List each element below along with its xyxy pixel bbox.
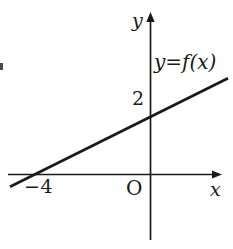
x-intercept-tick-label: −4 (24, 177, 53, 196)
x-axis-label: x (210, 180, 221, 199)
function-graph-figure: y x O 2 −4 y=f(x) (0, 0, 233, 249)
y-axis-label: y (132, 11, 143, 30)
y-axis-arrowhead (146, 12, 154, 22)
function-line (10, 78, 228, 187)
y-intercept-tick-label: 2 (132, 89, 144, 108)
function-curve-label: y=f(x) (154, 52, 216, 72)
graph-canvas (0, 0, 233, 249)
origin-label: O (126, 178, 142, 198)
edge-artifact-mark (0, 63, 3, 70)
